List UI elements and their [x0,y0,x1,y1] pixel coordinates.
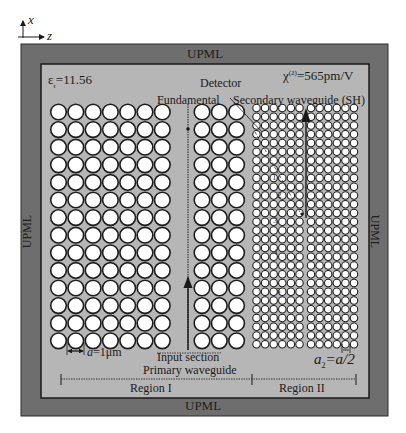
air-hole [103,122,119,138]
air-hole [287,253,294,260]
air-hole [261,183,268,190]
air-hole [229,122,245,138]
air-hole [325,174,332,181]
air-hole [137,104,153,120]
air-hole [342,244,349,251]
air-hole [296,262,303,269]
air-hole [307,297,314,304]
air-hole [155,263,171,279]
air-hole [307,209,314,216]
detector-number-3: 3 [273,215,278,225]
air-hole [316,183,323,190]
air-hole [279,139,286,146]
air-hole [333,113,340,120]
air-hole [296,183,303,190]
air-hole [85,175,101,191]
air-hole [51,192,67,208]
air-hole [279,113,286,120]
air-hole [85,315,101,331]
chi-superscript: (2) [289,69,297,77]
air-hole [333,148,340,155]
air-hole [325,113,332,120]
air-hole [287,183,294,190]
air-hole [333,201,340,208]
air-hole [51,122,67,138]
air-hole [68,245,84,261]
air-hole [253,314,260,321]
air-hole [85,104,101,120]
air-hole [325,201,332,208]
air-hole [307,201,314,208]
air-hole [325,323,332,330]
air-hole [296,306,303,313]
secondary-waveguide-label: Secondary waveguide (SH) [233,93,365,108]
air-hole [333,209,340,216]
air-hole [253,166,260,173]
air-hole [253,271,260,278]
air-hole [194,210,210,226]
air-hole [212,245,228,261]
air-hole [212,333,228,349]
air-hole [68,139,84,155]
air-hole [333,183,340,190]
air-hole [253,253,260,260]
air-hole [316,288,323,295]
air-hole [261,236,268,243]
air-hole [325,288,332,295]
air-hole [333,323,340,330]
air-hole [333,332,340,339]
air-hole [342,148,349,155]
air-hole [212,175,228,191]
air-hole [350,148,357,155]
air-hole [287,236,294,243]
air-hole [316,122,323,129]
air-hole [103,157,119,173]
air-hole [325,139,332,146]
air-hole [194,333,210,349]
air-hole [325,341,332,348]
upml-right-label: UPML [367,215,382,248]
air-hole [261,227,268,234]
air-hole [287,279,294,286]
air-hole [307,183,314,190]
air-hole [279,332,286,339]
air-hole [194,298,210,314]
a2-var: a [314,351,322,367]
air-hole [325,297,332,304]
chi-value: =565pm/V [297,68,353,83]
air-hole [51,175,67,191]
air-hole [333,236,340,243]
air-hole [253,148,260,155]
air-hole [137,280,153,296]
detector-label: Detector [200,76,241,91]
region1-label: Region I [130,381,172,396]
air-hole [296,244,303,251]
air-hole [155,192,171,208]
air-hole [342,341,349,348]
air-hole [155,122,171,138]
air-hole [316,157,323,164]
air-hole [287,323,294,330]
air-hole [287,297,294,304]
air-hole [296,341,303,348]
air-hole [261,157,268,164]
air-hole [342,122,349,129]
air-hole [261,306,268,313]
air-hole [85,157,101,173]
fundamental-label: Fundamental [157,93,220,108]
air-hole [307,122,314,129]
air-hole [253,192,260,199]
air-hole [325,209,332,216]
air-hole [287,332,294,339]
air-hole [350,306,357,313]
air-hole [261,113,268,120]
air-hole [296,297,303,304]
air-hole [307,306,314,313]
air-hole [325,166,332,173]
air-hole [85,192,101,208]
air-hole [316,306,323,313]
air-hole [342,218,349,225]
air-hole [279,297,286,304]
air-hole [296,332,303,339]
air-hole [316,227,323,234]
